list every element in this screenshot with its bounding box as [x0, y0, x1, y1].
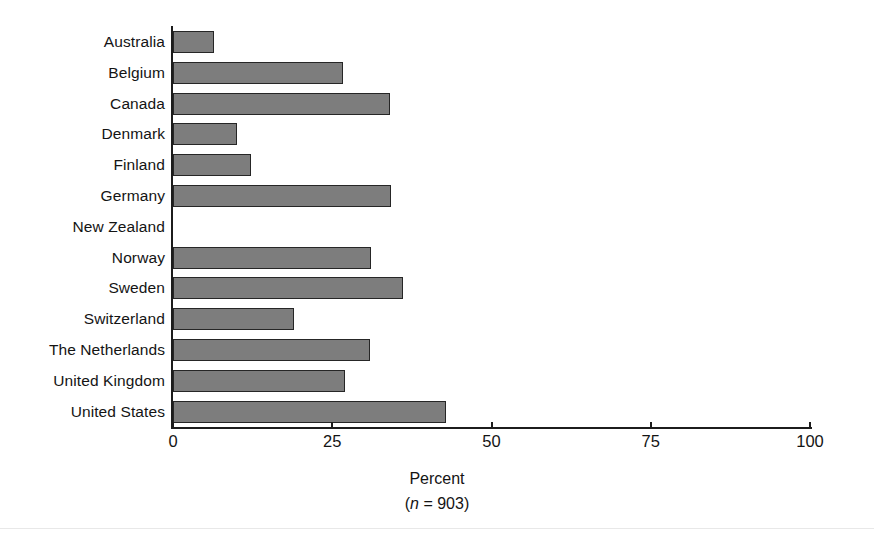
category-label: United States — [0, 404, 165, 420]
bottom-hairline — [0, 528, 874, 529]
category-label: Sweden — [0, 280, 165, 296]
bar-row — [173, 339, 874, 361]
x-axis-tick — [331, 422, 333, 429]
bar — [173, 123, 237, 145]
x-axis-tick — [650, 422, 652, 429]
bar-row — [173, 93, 874, 115]
category-label: Switzerland — [0, 311, 165, 327]
bar — [173, 370, 345, 392]
bar-series-column — [173, 26, 874, 426]
bar-chart-figure: AustraliaBelgiumCanadaDenmarkFinlandGerm… — [0, 0, 874, 535]
bar-row — [173, 277, 874, 299]
bar-row — [173, 31, 874, 53]
bar-row — [173, 247, 874, 269]
category-label: Norway — [0, 250, 165, 266]
bar — [173, 308, 294, 330]
bar-row — [173, 185, 874, 207]
bar-row — [173, 123, 874, 145]
bar — [173, 93, 390, 115]
x-axis-tick-label: 25 — [323, 433, 341, 450]
category-label: Denmark — [0, 126, 165, 142]
category-label: New Zealand — [0, 219, 165, 235]
x-axis-tick-label: 75 — [642, 433, 660, 450]
category-label: Australia — [0, 34, 165, 50]
x-axis-tick — [809, 422, 811, 429]
bar — [173, 247, 371, 269]
x-axis-tick-label: 50 — [482, 433, 500, 450]
bar — [173, 277, 403, 299]
category-label: The Netherlands — [0, 342, 165, 358]
bar — [173, 401, 446, 423]
bar-row — [173, 62, 874, 84]
category-label: Germany — [0, 188, 165, 204]
bar-row — [173, 216, 874, 238]
y-axis-line — [171, 26, 173, 428]
x-axis-tick — [172, 422, 174, 429]
bar — [173, 154, 251, 176]
bar — [173, 185, 391, 207]
bar — [173, 62, 343, 84]
sample-size-value: = 903) — [419, 495, 469, 512]
category-label: United Kingdom — [0, 373, 165, 389]
category-label: Belgium — [0, 65, 165, 81]
bar-row — [173, 154, 874, 176]
bar-row — [173, 370, 874, 392]
category-label-column: AustraliaBelgiumCanadaDenmarkFinlandGerm… — [0, 26, 165, 426]
bar-row — [173, 401, 874, 423]
bar — [173, 339, 370, 361]
bar — [173, 31, 214, 53]
x-axis-tick-label: 0 — [168, 433, 177, 450]
x-axis-tick-label: 100 — [796, 433, 824, 450]
bar-row — [173, 308, 874, 330]
sample-size-symbol: n — [410, 495, 419, 512]
category-label: Finland — [0, 157, 165, 173]
category-label: Canada — [0, 96, 165, 112]
x-axis-sample-size: (n = 903) — [0, 496, 874, 512]
x-axis-title: Percent — [0, 471, 874, 487]
plot-area: AustraliaBelgiumCanadaDenmarkFinlandGerm… — [0, 26, 874, 426]
x-axis-tick — [491, 422, 493, 429]
